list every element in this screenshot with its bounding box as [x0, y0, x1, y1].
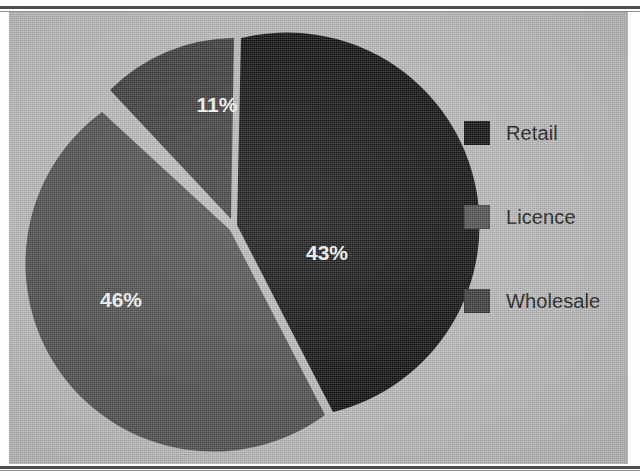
page-rule-top — [0, 6, 640, 9]
legend-item-wholesale[interactable]: Wholesale — [464, 288, 624, 314]
legend-swatch-wholesale — [464, 289, 490, 313]
legend-label-licence: Licence — [506, 206, 576, 229]
legend-swatch-licence — [464, 205, 490, 229]
pie-chart-panel: 43% 46% 11% Retail Licence Wholesale — [9, 12, 628, 464]
page-rule-bottom — [0, 466, 640, 469]
legend-label-wholesale: Wholesale — [506, 290, 600, 313]
chart-legend: Retail Licence Wholesale — [464, 120, 624, 314]
page-canvas: 43% 46% 11% Retail Licence Wholesale — [0, 0, 640, 476]
pie-label-licence: 46% — [100, 288, 142, 311]
page-rule-bottom-thin — [0, 470, 640, 471]
legend-item-retail[interactable]: Retail — [464, 120, 624, 146]
legend-label-retail: Retail — [506, 122, 558, 145]
pie-label-retail: 43% — [306, 241, 348, 264]
legend-item-licence[interactable]: Licence — [464, 204, 624, 230]
legend-swatch-retail — [464, 121, 490, 145]
pie-label-wholesale: 11% — [197, 93, 238, 116]
